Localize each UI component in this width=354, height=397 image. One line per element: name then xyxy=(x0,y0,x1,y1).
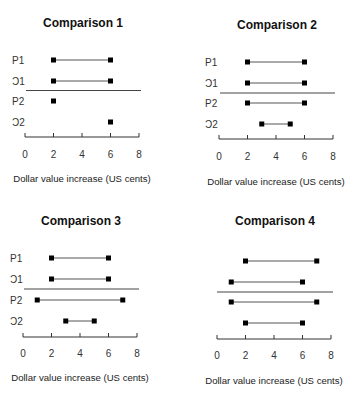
tick-label: 4 xyxy=(271,350,277,361)
square-marker-icon xyxy=(259,122,264,127)
square-marker-icon xyxy=(108,58,113,63)
x-axis-label: Dollar value increase (US cents) xyxy=(207,176,345,187)
square-marker-icon xyxy=(314,259,319,264)
tick-label: 2 xyxy=(243,350,249,361)
tick-label: 2 xyxy=(245,151,251,162)
tick-label: 2 xyxy=(51,149,57,160)
square-marker-icon xyxy=(243,321,248,326)
tick-label: 8 xyxy=(134,348,140,359)
data-row: P2 xyxy=(10,295,125,306)
square-marker-icon xyxy=(51,58,56,63)
square-marker-icon xyxy=(120,298,125,303)
chart-title: Comparison 1 xyxy=(43,16,123,30)
data-row xyxy=(229,280,305,285)
tick-label: 8 xyxy=(136,149,142,160)
data-row: P1 xyxy=(12,55,113,66)
square-marker-icon xyxy=(245,101,250,106)
square-marker-icon xyxy=(302,81,307,86)
data-row xyxy=(243,259,319,264)
square-marker-icon xyxy=(51,79,56,84)
x-axis-label: Dollar value increase (US cents) xyxy=(13,173,151,184)
row-label: P2 xyxy=(12,96,25,107)
row-label: P1 xyxy=(10,253,23,264)
comparison-charts: Comparison 1P1Ɔ1P2Ɔ202468Dollar value in… xyxy=(0,0,354,397)
square-marker-icon xyxy=(49,277,54,282)
square-marker-icon xyxy=(314,300,319,305)
row-label: Ɔ2 xyxy=(10,316,23,327)
tick-label: 6 xyxy=(106,348,112,359)
data-row xyxy=(243,321,305,326)
chart-title: Comparison 2 xyxy=(237,18,317,32)
data-row: Ɔ2 xyxy=(205,119,293,130)
chart-panel-4: Comparison 402468Dollar value increase (… xyxy=(205,214,343,386)
data-row: P1 xyxy=(205,57,307,68)
x-axis: 02468 xyxy=(216,135,336,162)
chart-panel-3: Comparison 3P1Ɔ1P2Ɔ202468Dollar value in… xyxy=(10,214,149,383)
square-marker-icon xyxy=(245,60,250,65)
data-row: P2 xyxy=(12,96,56,107)
data-row: Ɔ1 xyxy=(10,274,111,285)
square-marker-icon xyxy=(106,277,111,282)
square-marker-icon xyxy=(63,319,68,324)
square-marker-icon xyxy=(51,99,56,104)
data-row: Ɔ2 xyxy=(10,316,97,327)
square-marker-icon xyxy=(229,280,234,285)
square-marker-icon xyxy=(300,321,305,326)
tick-label: 4 xyxy=(79,149,85,160)
tick-label: 6 xyxy=(108,149,114,160)
square-marker-icon xyxy=(302,60,307,65)
square-marker-icon xyxy=(300,280,305,285)
row-label: Ɔ1 xyxy=(10,274,23,285)
square-marker-icon xyxy=(108,79,113,84)
tick-label: 6 xyxy=(302,151,308,162)
tick-label: 6 xyxy=(300,350,306,361)
chart-panel-1: Comparison 1P1Ɔ1P2Ɔ202468Dollar value in… xyxy=(12,16,151,184)
row-label: P1 xyxy=(205,57,218,68)
x-axis: 02468 xyxy=(20,333,140,359)
row-label: P2 xyxy=(205,98,218,109)
chart-panel-2: Comparison 2P1Ɔ1P2Ɔ202468Dollar value in… xyxy=(205,18,345,187)
square-marker-icon xyxy=(243,259,248,264)
tick-label: 8 xyxy=(328,350,334,361)
square-marker-icon xyxy=(35,298,40,303)
tick-label: 0 xyxy=(22,149,28,160)
data-row: Ɔ2 xyxy=(12,117,113,128)
square-marker-icon xyxy=(302,101,307,106)
square-marker-icon xyxy=(49,256,54,261)
square-marker-icon xyxy=(108,120,113,125)
data-row: P2 xyxy=(205,98,307,109)
square-marker-icon xyxy=(229,300,234,305)
data-row: Ɔ1 xyxy=(205,78,307,89)
row-label: Ɔ2 xyxy=(12,117,25,128)
tick-label: 0 xyxy=(214,350,220,361)
row-label: Ɔ2 xyxy=(205,119,218,130)
tick-label: 4 xyxy=(273,151,279,162)
x-axis-label: Dollar value increase (US cents) xyxy=(205,375,343,386)
row-label: P2 xyxy=(10,295,23,306)
chart-title: Comparison 4 xyxy=(235,214,315,228)
x-axis: 02468 xyxy=(214,335,334,361)
square-marker-icon xyxy=(288,122,293,127)
tick-label: 4 xyxy=(77,348,83,359)
row-label: P1 xyxy=(12,55,25,66)
chart-title: Comparison 3 xyxy=(41,214,121,228)
data-row: Ɔ1 xyxy=(12,76,113,87)
x-axis: 02468 xyxy=(22,133,142,160)
tick-label: 8 xyxy=(330,151,336,162)
data-row: P1 xyxy=(10,253,111,264)
row-label: Ɔ1 xyxy=(12,76,25,87)
tick-label: 2 xyxy=(49,348,55,359)
data-row xyxy=(229,300,320,305)
square-marker-icon xyxy=(245,81,250,86)
tick-label: 0 xyxy=(20,348,26,359)
square-marker-icon xyxy=(106,256,111,261)
tick-label: 0 xyxy=(216,151,222,162)
x-axis-label: Dollar value increase (US cents) xyxy=(11,372,149,383)
square-marker-icon xyxy=(92,319,97,324)
row-label: Ɔ1 xyxy=(205,78,218,89)
